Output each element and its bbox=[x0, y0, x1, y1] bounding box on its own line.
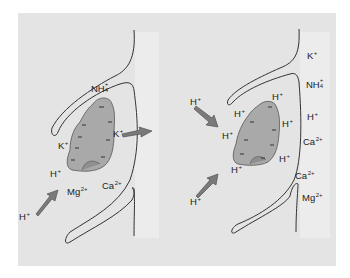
label-ca-left: Ca2+ bbox=[102, 180, 122, 191]
label-h-right-right: H+ bbox=[282, 118, 293, 129]
label-h-arrow-bottom-right: H+ bbox=[190, 196, 201, 207]
left-lower-wall bbox=[132, 188, 135, 236]
label-ca-column-2: Ca2+ bbox=[295, 170, 315, 181]
right-upper-wall bbox=[227, 29, 299, 105]
label-h-left-upper-right: H+ bbox=[234, 108, 245, 119]
label-ca-column-1: Ca2+ bbox=[303, 136, 323, 147]
label-h-lower-right-right: H+ bbox=[279, 153, 290, 164]
label-k-column: K+ bbox=[307, 50, 317, 61]
right-lower-wall bbox=[290, 184, 298, 233]
h-in-arrow-icon-right-bottom bbox=[196, 174, 218, 198]
label-h-left-right: H+ bbox=[222, 130, 233, 141]
label-h-column: H+ bbox=[307, 111, 318, 122]
label-h-near-left: H+ bbox=[50, 168, 61, 179]
label-mg-left: Mg2+ bbox=[67, 186, 88, 197]
label-nh4-column: NH+4 bbox=[306, 80, 320, 90]
label-h-outside-left: H+ bbox=[19, 211, 30, 222]
label-h-top-right: H+ bbox=[272, 91, 283, 102]
label-h-arrow-top-right: H+ bbox=[190, 96, 201, 107]
label-mg-column: Mg2+ bbox=[302, 192, 323, 203]
label-nh4-left: NH+4 bbox=[91, 84, 105, 94]
h-in-arrow-icon-left bbox=[36, 190, 58, 216]
ion-exchange-illustration bbox=[0, 0, 350, 278]
label-k-right-left: K+ bbox=[113, 128, 123, 139]
label-h-bottom-right: H+ bbox=[231, 164, 242, 175]
left-particle bbox=[67, 98, 114, 171]
h-in-arrow-icon-right-top bbox=[194, 106, 218, 127]
label-k-left-left: K+ bbox=[58, 140, 68, 151]
